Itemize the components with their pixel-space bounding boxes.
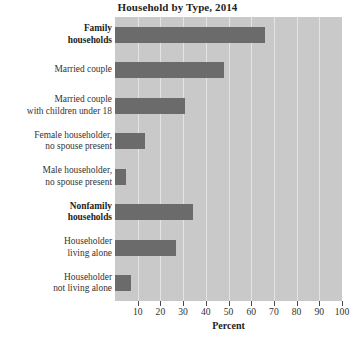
- bar: [115, 275, 131, 291]
- gridline: [251, 17, 252, 301]
- gridline: [138, 17, 139, 301]
- plot-area: [115, 17, 342, 301]
- category-label-line: Married couple: [27, 94, 112, 106]
- gridline: [229, 17, 230, 301]
- category-label-line: Householder: [64, 236, 112, 248]
- x-tick-label: 70: [269, 306, 279, 317]
- chart-title: Household by Type, 2014: [0, 1, 355, 13]
- gridline: [160, 17, 161, 301]
- x-tick-label: 80: [292, 306, 302, 317]
- x-tick-label: 20: [156, 306, 166, 317]
- gridline: [206, 17, 207, 301]
- gridline: [319, 17, 320, 301]
- category-label: Householdernot living alone: [53, 272, 112, 295]
- category-label-line: Nonfamily: [68, 201, 112, 213]
- category-label-line: with children under 18: [27, 106, 112, 118]
- category-label-line: Family: [68, 23, 112, 35]
- gridline: [274, 17, 275, 301]
- bar: [115, 62, 224, 78]
- x-tick-label: 30: [178, 306, 188, 317]
- bar: [115, 169, 126, 185]
- category-label-line: not living alone: [53, 283, 112, 295]
- category-label: Nonfamilyhouseholds: [68, 201, 112, 224]
- x-tick-label: 40: [201, 306, 211, 317]
- category-label: Male householder,no spouse present: [43, 165, 112, 188]
- category-label-line: Male householder,: [43, 165, 112, 177]
- category-label-line: living alone: [64, 248, 112, 260]
- bar: [115, 98, 185, 114]
- category-label-line: households: [68, 212, 112, 224]
- x-tick-label: 90: [315, 306, 325, 317]
- x-tick-label: 100: [335, 306, 349, 317]
- bar: [115, 27, 265, 43]
- x-tick-label: 60: [246, 306, 256, 317]
- category-label: Familyhouseholds: [68, 23, 112, 46]
- category-label: Married couple: [54, 64, 112, 76]
- gridline: [183, 17, 184, 301]
- category-label-line: Householder: [53, 272, 112, 284]
- bar: [115, 204, 193, 220]
- category-label-line: no spouse present: [34, 141, 112, 153]
- category-label-line: Female householder,: [34, 130, 112, 142]
- bar: [115, 240, 176, 256]
- category-label: Female householder,no spouse present: [34, 130, 112, 153]
- gridline: [297, 17, 298, 301]
- x-axis: Percent 102030405060708090100: [115, 301, 342, 341]
- category-label-line: households: [68, 35, 112, 47]
- category-label: Householderliving alone: [64, 236, 112, 259]
- x-axis-title: Percent: [115, 320, 342, 331]
- bar: [115, 133, 145, 149]
- category-label-line: Married couple: [54, 64, 112, 76]
- category-label: Married couplewith children under 18: [27, 94, 112, 117]
- x-tick-label: 50: [224, 306, 234, 317]
- x-tick-label: 10: [133, 306, 143, 317]
- category-label-line: no spouse present: [43, 177, 112, 189]
- chart-figure: Household by Type, 2014 Percent 10203040…: [0, 0, 355, 341]
